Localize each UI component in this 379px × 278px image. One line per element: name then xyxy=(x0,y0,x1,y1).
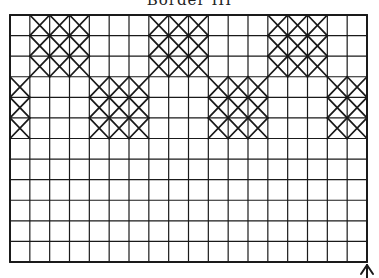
cross-stitch-grid xyxy=(0,0,379,278)
